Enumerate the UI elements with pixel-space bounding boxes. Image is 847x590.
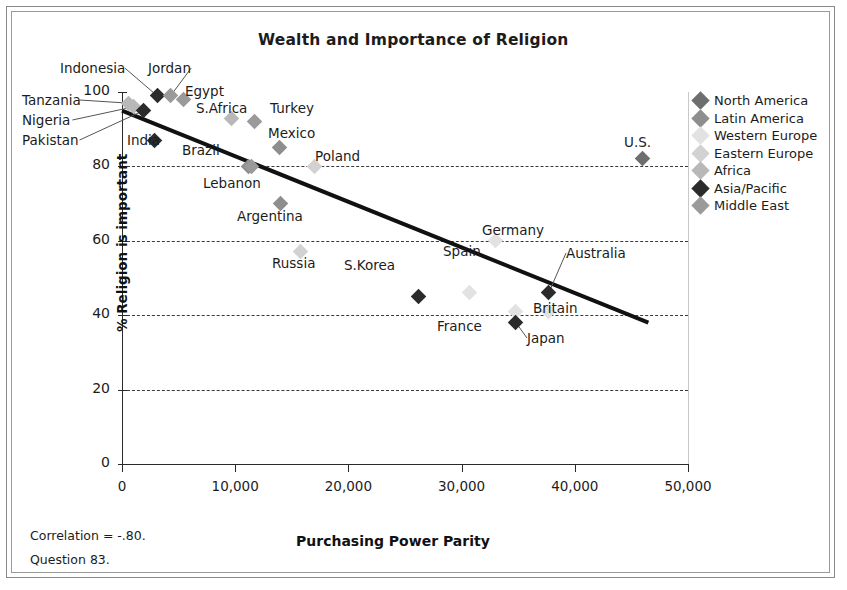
point-label: Brazil [182,142,220,158]
y-tick [118,92,127,93]
point-label: Turkey [270,100,314,116]
point-label: U.S. [624,134,651,150]
x-tick-label: 20,000 [308,478,388,494]
legend-label: Africa [714,163,751,178]
x-axis-title: Purchasing Power Parity [296,533,490,549]
legend-label: Eastern Europe [714,146,813,161]
point-label: Egypt [185,83,224,99]
legend-label: Western Europe [714,128,817,143]
legend-label: Latin America [714,111,804,126]
y-tick-label: 100 [70,82,110,98]
point-label: Nigeria [22,112,70,128]
legend-item-africa[interactable]: Africa [694,162,817,180]
legend-marker-icon [691,162,709,180]
plot-area: IndonesiaJordanEgyptTanzaniaNigeriaPakis… [122,92,688,464]
y-tick-label: 0 [70,454,110,470]
x-tick-label: 30,000 [422,478,502,494]
point-label: Australia [566,245,626,261]
y-tick-label: 20 [70,380,110,396]
x-tick [235,464,236,472]
point-label: Britain [533,300,577,316]
point-label: Lebanon [203,175,261,191]
point-label: Argentina [237,208,303,224]
x-tick-label: 0 [82,478,162,494]
legend-marker-icon [691,127,709,145]
legend-item-eastern-europe[interactable]: Eastern Europe [694,145,817,163]
point-label: Russia [272,255,315,271]
legend-item-middle-east[interactable]: Middle East [694,197,817,215]
point-label: S.Africa [196,100,247,116]
point-label: Germany [482,222,544,238]
legend-item-north-america[interactable]: North America [694,92,817,110]
point-label: India [127,132,160,148]
legend-item-asia-pacific[interactable]: Asia/Pacific [694,180,817,198]
legend-marker-icon [691,144,709,162]
legend: North AmericaLatin AmericaWestern Europe… [694,92,817,215]
legend-label: North America [714,93,808,108]
x-tick-label: 50,000 [648,478,728,494]
y-tick-label: 40 [70,305,110,321]
footnote-correlation: Correlation = -.80. [30,528,146,543]
x-tick [688,464,689,472]
x-tick [575,464,576,472]
chart-canvas: Wealth and Importance of Religion Indone… [0,0,847,590]
point-label: Indonesia [60,60,125,76]
y-axis-title: % Religion is important [114,154,130,332]
legend-label: Middle East [714,198,789,213]
footnote-question: Question 83. [30,552,110,567]
legend-label: Asia/Pacific [714,181,787,196]
y-tick [118,390,127,391]
point-label: Spain [443,243,481,259]
y-tick-label: 80 [70,156,110,172]
point-label: Mexico [268,125,315,141]
y-tick-label: 60 [70,231,110,247]
x-tick [348,464,349,472]
legend-marker-icon [691,109,709,127]
x-tick [462,464,463,472]
legend-marker-icon [691,197,709,215]
legend-item-western-europe[interactable]: Western Europe [694,127,817,145]
point-label: Jordan [148,60,191,76]
x-tick [122,464,123,472]
point-label: France [437,318,482,334]
point-label: Poland [315,148,360,164]
legend-marker-icon [691,92,709,110]
point-label: Pakistan [22,132,79,148]
x-tick-label: 10,000 [195,478,275,494]
x-tick-label: 40,000 [535,478,615,494]
legend-item-latin-america[interactable]: Latin America [694,110,817,128]
legend-marker-icon [691,179,709,197]
point-label: Japan [527,330,565,346]
point-label: S.Korea [344,257,395,273]
